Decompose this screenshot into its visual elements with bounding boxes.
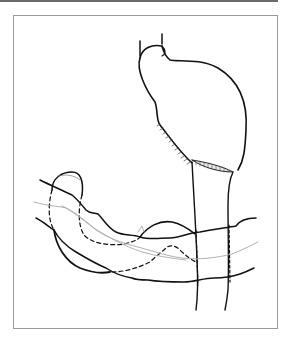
- duodenum-tube: [192, 162, 233, 310]
- hatched-staple-line: [192, 160, 233, 172]
- anatomy-drawing: [0, 0, 298, 348]
- cecum-loop: [52, 172, 83, 195]
- transverse-colon: [36, 180, 256, 282]
- stomach: [139, 46, 246, 171]
- dashed-outline: [49, 190, 196, 272]
